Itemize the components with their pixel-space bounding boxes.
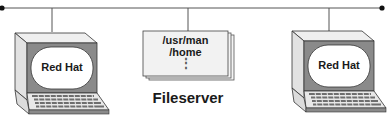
bus-terminator-left-icon (0, 5, 5, 10)
left-terminal-screen-label: Red Hat (31, 61, 93, 73)
right-terminal-screen-label: Red Hat (308, 59, 370, 71)
fileserver-title: Fileserver (143, 89, 233, 106)
terminal-right-icon (292, 31, 386, 112)
bus-terminator-right-icon (379, 5, 384, 10)
export-path-usr-man: /usr/man (143, 34, 228, 46)
terminal-left-icon (15, 33, 109, 114)
more-exports-indicator: ⋮ (143, 57, 228, 69)
